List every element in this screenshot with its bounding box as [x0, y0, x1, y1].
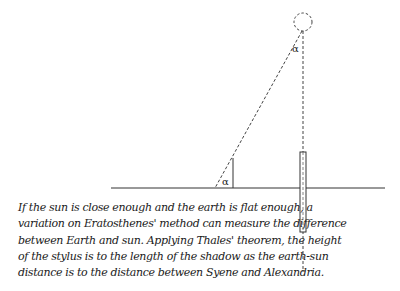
angle-label-bottom: α — [222, 176, 229, 187]
angle-label-top: α — [292, 43, 299, 54]
caption-line: distance is to the distance between Syen… — [18, 265, 303, 281]
figure-caption: If the sun is close enough and the earth… — [18, 200, 303, 281]
caption-line: between Earth and sun. Applying Thales' … — [18, 233, 303, 249]
caption-line: variation on Eratosthenes' method can me… — [18, 216, 303, 232]
sun-circle — [294, 13, 312, 31]
caption-line: If the sun is close enough and the earth… — [18, 200, 303, 216]
slanted-sun-ray — [215, 31, 302, 188]
caption-line: of the stylus is to the length of the sh… — [18, 249, 303, 265]
